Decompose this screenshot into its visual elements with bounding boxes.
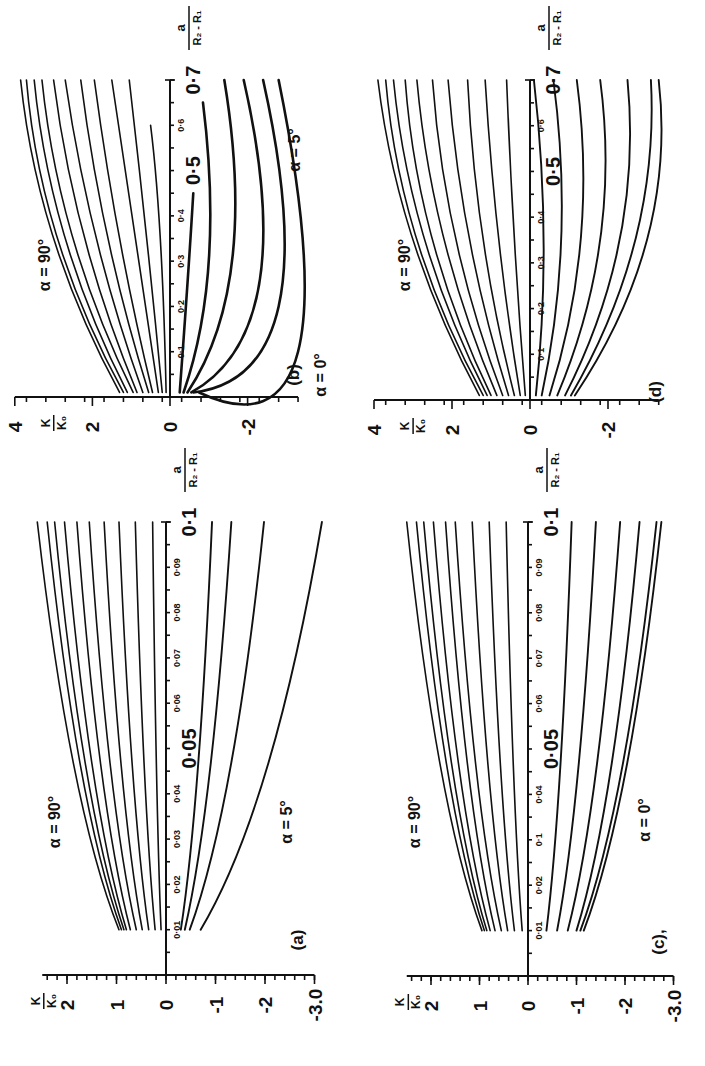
a-axis-tick-label: 0·07: [172, 649, 182, 667]
a-axis-tick-label: 0·04: [172, 785, 182, 803]
a-axis-tick-label: 0·1: [534, 833, 544, 846]
a-axis-tick-label: 0·1: [176, 345, 186, 358]
a-axis-tick-label: 0·08: [534, 604, 544, 622]
a-axis-tick-label: 0·06: [534, 695, 544, 713]
curve-c4: [433, 522, 490, 931]
k-axis-label-num: K: [393, 997, 407, 1006]
a-axis-tick-label: 0·02: [534, 876, 544, 894]
alpha-bottom-annotation: α = 5°: [286, 128, 303, 171]
panel-label: (a): [288, 930, 307, 951]
a-axis-label-den: R₂ - R₁: [549, 452, 561, 488]
a-axis-major-label: 0·5: [182, 156, 204, 185]
curve-c7: [81, 80, 149, 392]
a-axis-tick-label: 0·04: [534, 785, 544, 803]
a-axis-tick-label: 0·09: [534, 558, 544, 576]
alpha-top-annotation: α = 90°: [36, 239, 53, 291]
a-axis-major-label: 0·05: [178, 728, 200, 768]
curve-family: [37, 522, 322, 930]
a-axis-major-label: 0·7: [182, 66, 204, 95]
k-axis-label-num: K: [29, 996, 43, 1005]
alpha-top-annotation: α = 90°: [46, 796, 63, 848]
k-axis-tick-label: 2: [442, 425, 463, 436]
a-axis-major-label: 0·1: [540, 508, 562, 537]
k-axis-label: KK₀: [39, 415, 69, 431]
curve-c10: [546, 522, 571, 931]
curve-family: [407, 522, 662, 931]
a-axis-tick-label: 0·4: [176, 209, 186, 222]
curve-c13: [550, 80, 584, 395]
k-axis-tick-label: 0: [518, 1001, 539, 1012]
a-axis-label-num: a: [531, 466, 546, 474]
alpha-bottom-annotation: α = 0°: [636, 798, 653, 841]
curve-c3: [55, 522, 124, 930]
panel-b: 420-2KK₀0·10·20·30·40·60·50·7aR₂ - R₁α =…: [5, 6, 305, 435]
a-axis-label-num: a: [169, 466, 184, 474]
alpha-bottom-annotation: α = 0°: [312, 353, 329, 396]
a-axis-label: aR₂ - R₁: [173, 6, 203, 50]
k-axis-tick-label: 4: [364, 424, 385, 435]
k-axis-tick-label: 2: [57, 1000, 78, 1011]
alpha-top-annotation: α = 90°: [396, 239, 413, 291]
curve-c12: [568, 522, 620, 931]
a-axis-tick-label: 0·01: [534, 922, 544, 940]
a-axis-major-label: 0·05: [540, 729, 562, 769]
k-axis-label: KK₀: [393, 994, 423, 1010]
a-axis-label-den: R₂ - R₁: [187, 452, 199, 488]
a-axis-label: aR₂ - R₁: [533, 6, 563, 50]
curve-c16: [571, 80, 652, 395]
curve-c2: [26, 80, 123, 392]
k-axis-tick-label: -2: [238, 419, 259, 436]
k-axis-tick-label: -1: [567, 997, 588, 1014]
figure-canvas: 420-2KK₀0·10·20·30·40·60·50·7aR₂ - R₁α =…: [0, 0, 705, 1066]
curve-c8: [468, 80, 515, 395]
k-axis-tick-label: 2: [82, 422, 103, 433]
k-axis-tick-label: -2: [598, 422, 619, 439]
curve-c8: [94, 80, 152, 392]
a-axis-tick-label: 0·06: [172, 694, 182, 712]
k-axis-tick-label: -3.0: [664, 990, 685, 1023]
curve-c14: [187, 80, 235, 392]
curve-c9: [135, 522, 155, 930]
k-axis-label: KK₀: [29, 993, 59, 1009]
curve-c10: [153, 522, 161, 930]
curve-c6: [65, 80, 143, 392]
alpha-bottom-annotation: α = 5°: [278, 800, 295, 843]
curve-c13: [184, 103, 211, 393]
a-axis-tick-label: 0·2: [536, 302, 546, 315]
panel-label: (d): [646, 381, 665, 403]
a-axis-tick-label: 0·3: [176, 255, 186, 268]
a-axis-major-label: 0·1: [178, 508, 200, 537]
k-axis-tick-label: 4: [5, 421, 26, 432]
panel-label: (b): [284, 364, 303, 386]
a-axis-label-num: a: [533, 24, 548, 32]
a-axis-tick-label: 0·03: [172, 830, 182, 848]
curve-family: [21, 80, 305, 405]
k-axis-tick-label: 1: [107, 999, 128, 1010]
k-axis-label: KK₀: [398, 418, 428, 434]
k-axis-tick-label: -1: [206, 996, 227, 1013]
k-axis-label-den: K₀: [414, 419, 428, 433]
panel-label: (c),: [649, 929, 668, 955]
k-axis-tick-label: 0: [520, 425, 541, 436]
k-axis-tick-label: 0: [160, 422, 181, 433]
k-axis-tick-label: -3.0: [305, 989, 326, 1022]
curve-c15: [191, 80, 263, 392]
a-axis-tick-label: 0·6: [176, 119, 186, 132]
a-axis-label-den: R₂ - R₁: [191, 10, 203, 46]
curve-c8: [489, 522, 514, 931]
k-axis-tick-label: 2: [421, 1001, 442, 1012]
k-axis-tick-label: -2: [615, 998, 636, 1015]
a-axis-tick-label: 0·4: [536, 211, 546, 224]
k-axis-tick-label: 0: [156, 1000, 177, 1011]
k-axis-tick-label: 1: [470, 1000, 491, 1011]
alpha-top-annotation: α = 90°: [406, 796, 423, 848]
k-axis-label-den: K₀: [45, 994, 59, 1008]
curve-5: [201, 522, 322, 930]
panel-d: 420-2KK₀0·10·20·30·40·60·50·7aR₂ - R₁α =…: [312, 6, 665, 438]
curve-c3: [394, 80, 488, 395]
panel-a: 210-1-2-3.0KK₀0·010·020·030·040·060·070·…: [29, 448, 326, 1021]
a-axis-label: aR₂ - R₁: [169, 448, 199, 492]
a-axis-label-den: R₂ - R₁: [551, 10, 563, 46]
a-axis-tick-label: 0·09: [172, 558, 182, 576]
k-axis-label-num: K: [39, 418, 53, 427]
